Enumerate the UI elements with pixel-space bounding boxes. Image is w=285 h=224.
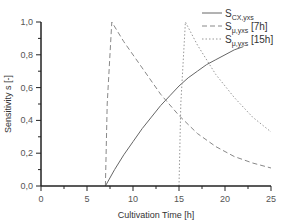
x-tick-label: 0: [38, 194, 43, 204]
legend: SCX,yxsSμ,yxs [7h]Sμ,yxs [15h]: [202, 8, 273, 48]
x-tick-label: 10: [128, 194, 138, 204]
x-tick-label: 5: [84, 194, 89, 204]
y-tick-label: 0,0: [20, 181, 33, 191]
y-axis-title: Sensitivity s [-]: [3, 75, 13, 133]
x-tick-label: 25: [266, 194, 276, 204]
legend-label-1: Sμ,yxs [7h]: [225, 21, 268, 35]
x-tick-label: 15: [174, 194, 184, 204]
series-line-2: [179, 22, 271, 186]
y-tick-label: 0,6: [20, 83, 33, 93]
x-axis-title: Cultivation Time [h]: [118, 210, 195, 220]
y-tick-label: 1,0: [20, 17, 33, 27]
sensitivity-chart: 05101520250,00,20,40,60,81,0 Cultivation…: [0, 0, 285, 224]
legend-label-0: SCX,yxs: [225, 8, 254, 22]
x-tick-label: 20: [220, 194, 230, 204]
y-tick-label: 0,4: [20, 115, 33, 125]
y-tick-label: 0,8: [20, 50, 33, 60]
legend-label-2: Sμ,yxs [15h]: [225, 34, 273, 48]
series-line-0: [105, 47, 243, 186]
y-tick-label: 0,2: [20, 148, 33, 158]
